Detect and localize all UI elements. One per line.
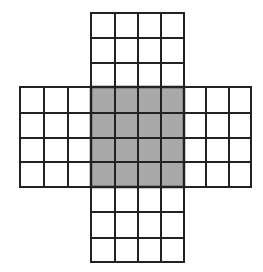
grid-cell (44, 87, 68, 113)
grid-cell (161, 13, 184, 38)
grid-cell (161, 187, 184, 212)
center-square (91, 87, 184, 187)
grid-cell (229, 113, 251, 138)
grid-cell (20, 162, 44, 187)
grid-cell (206, 138, 229, 162)
grid-cell (184, 87, 206, 113)
shaded-cell (115, 113, 138, 138)
grid-cell (68, 138, 91, 162)
shaded-cell (138, 138, 161, 162)
grid-cell (206, 87, 229, 113)
grid-cell (229, 162, 251, 187)
shaded-cell (138, 162, 161, 187)
grid-cell (91, 13, 115, 38)
grid-cell (68, 162, 91, 187)
grid-cell (91, 63, 115, 87)
shaded-cell (91, 138, 115, 162)
grid-cell (161, 212, 184, 238)
right-arm (184, 87, 251, 187)
shaded-cell (91, 162, 115, 187)
grid-cell (229, 138, 251, 162)
shaded-cell (161, 138, 184, 162)
top-arm (91, 13, 184, 87)
grid-cell (115, 38, 138, 63)
grid-cell (115, 212, 138, 238)
grid-cell (68, 87, 91, 113)
grid-cell (161, 238, 184, 262)
shaded-cell (91, 87, 115, 113)
grid-cell (44, 138, 68, 162)
grid-cell (138, 238, 161, 262)
shaded-cell (161, 113, 184, 138)
grid-cell (20, 113, 44, 138)
grid-cell (115, 13, 138, 38)
grid-cell (184, 113, 206, 138)
grid-cell (161, 63, 184, 87)
cross-grid-diagram (0, 0, 263, 272)
grid-cell (20, 138, 44, 162)
grid-cell (138, 38, 161, 63)
shaded-cell (115, 162, 138, 187)
grid-cell (184, 162, 206, 187)
grid-cell (184, 138, 206, 162)
grid-cell (161, 38, 184, 63)
shaded-cell (161, 162, 184, 187)
shaded-cell (138, 113, 161, 138)
shaded-cell (115, 138, 138, 162)
grid-cell (44, 162, 68, 187)
grid-cell (91, 187, 115, 212)
left-arm (20, 87, 91, 187)
shaded-cell (91, 113, 115, 138)
grid-canvas (0, 0, 263, 272)
bottom-arm (91, 187, 184, 262)
grid-cell (138, 212, 161, 238)
shaded-cell (161, 87, 184, 113)
grid-cell (206, 113, 229, 138)
grid-cell (138, 63, 161, 87)
grid-cell (20, 87, 44, 113)
grid-cell (115, 187, 138, 212)
grid-cell (44, 113, 68, 138)
grid-cell (91, 38, 115, 63)
grid-cell (229, 87, 251, 113)
grid-cell (138, 13, 161, 38)
grid-cell (206, 162, 229, 187)
shaded-cell (115, 87, 138, 113)
grid-cell (91, 212, 115, 238)
grid-cell (91, 238, 115, 262)
grid-cell (68, 113, 91, 138)
grid-cell (138, 187, 161, 212)
grid-cell (115, 238, 138, 262)
shaded-cell (138, 87, 161, 113)
grid-cell (115, 63, 138, 87)
